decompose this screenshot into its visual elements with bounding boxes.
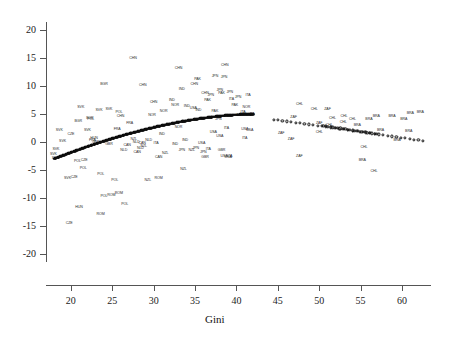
- data-point-label: CHL: [340, 121, 347, 125]
- data-point-label: FRA: [114, 128, 121, 132]
- x-axis-line: [46, 285, 431, 286]
- data-point-label: SVK: [56, 129, 63, 133]
- data-point-label: POL: [87, 118, 94, 122]
- data-point-label: NLD: [145, 139, 152, 143]
- data-point-label: CAN: [133, 151, 140, 155]
- data-point-label: NOR: [160, 111, 168, 115]
- data-point-label: CHL: [341, 116, 348, 120]
- data-point-label: SVK: [105, 108, 112, 112]
- data-point-label: CHL: [296, 103, 303, 107]
- data-point-label: SVK: [96, 109, 103, 113]
- data-point-label: SVK: [84, 130, 91, 134]
- data-point-label: BRA: [389, 116, 396, 120]
- fit-marker-right: [404, 137, 407, 140]
- data-point-label: NZL: [180, 168, 187, 172]
- fit-marker-right: [386, 134, 389, 137]
- data-point-label: BRA: [417, 111, 424, 115]
- data-point-label: IND: [169, 99, 175, 103]
- data-point-label: IND: [184, 105, 190, 109]
- fit-marker-right: [276, 119, 279, 122]
- y-tick-label: -10: [8, 192, 36, 203]
- data-point-label: PAK: [204, 99, 211, 103]
- data-point-label: PAK: [231, 104, 238, 108]
- data-point-label: SVK: [77, 106, 84, 110]
- data-point-label: IND: [182, 139, 188, 143]
- y-tick-mark: [40, 226, 46, 227]
- data-point-label: ITA: [206, 148, 211, 152]
- fit-marker-right: [312, 123, 315, 126]
- data-point-label: FRA: [126, 122, 133, 126]
- data-point-label: CHN: [190, 83, 198, 87]
- data-point-label: ITA: [224, 127, 229, 131]
- data-point-label: ITA: [154, 142, 159, 146]
- data-point-label: BRA: [405, 130, 412, 134]
- fit-marker-right: [316, 124, 319, 127]
- fit-marker-right: [412, 138, 415, 141]
- data-point-label: CZE: [81, 159, 88, 163]
- data-point-label: ITA: [246, 94, 251, 98]
- data-point-label: CHL: [370, 170, 377, 174]
- data-point-label: IND: [179, 88, 185, 92]
- x-tick-mark: [278, 285, 279, 291]
- x-tick-mark: [236, 285, 237, 291]
- data-point-label: CAN: [155, 156, 162, 160]
- data-point-label: NOR: [171, 104, 179, 108]
- data-point-label: ZAF: [324, 108, 331, 112]
- x-tick-label: 50: [305, 295, 333, 306]
- data-point-label: JPN: [179, 149, 186, 153]
- data-point-label: JPN: [227, 92, 234, 96]
- data-point-label: CHL: [349, 118, 356, 122]
- data-point-label: IND: [172, 143, 178, 147]
- data-point-label: ROM: [107, 194, 115, 198]
- x-tick-mark: [112, 285, 113, 291]
- data-point-label: NZL: [162, 152, 169, 156]
- data-point-label: NOR: [175, 126, 183, 130]
- fit-marker-left: [252, 113, 255, 116]
- data-point-label: NOR: [243, 106, 251, 110]
- data-point-label: GBR: [105, 144, 113, 148]
- scatter-plot-figure: 20151050-5-10-15-20 202530354045505560 C…: [0, 0, 451, 342]
- data-point-label: POL: [101, 195, 108, 199]
- x-tick-label: 55: [347, 295, 375, 306]
- y-tick-mark: [40, 170, 46, 171]
- fit-marker-right: [298, 122, 301, 125]
- data-point-label: USA: [198, 142, 205, 146]
- data-point-label: JPN: [217, 89, 224, 93]
- y-tick-label: -15: [8, 220, 36, 231]
- fit-marker-right: [307, 123, 310, 126]
- data-point-label: CHN: [221, 64, 229, 68]
- data-point-label: CZE: [66, 222, 73, 226]
- y-tick-mark: [40, 30, 46, 31]
- y-tick-label: 10: [8, 80, 36, 91]
- data-point-label: BGR: [75, 120, 83, 124]
- x-tick-label: 25: [98, 295, 126, 306]
- data-point-label: PAK: [194, 78, 201, 82]
- data-point-label: POL: [115, 111, 122, 115]
- x-tick-label: 40: [222, 295, 250, 306]
- data-point-label: ZAF: [290, 116, 297, 120]
- data-point-label: CHN: [139, 84, 147, 88]
- data-point-label: BRA: [365, 118, 372, 122]
- x-tick-mark: [402, 285, 403, 291]
- data-point-label: CHL: [360, 146, 367, 150]
- fit-marker-right: [382, 133, 385, 136]
- fit-marker-right: [281, 119, 284, 122]
- data-point-label: JPN: [208, 94, 215, 98]
- data-point-label: NLD: [120, 149, 127, 153]
- y-tick-mark: [40, 114, 46, 115]
- data-point-label: USA: [246, 130, 253, 134]
- data-point-label: CHL: [329, 117, 336, 121]
- data-point-label: NZL: [188, 149, 195, 153]
- fit-marker-right: [421, 139, 424, 142]
- data-point-label: BRA: [400, 118, 407, 122]
- y-tick-label: 15: [8, 52, 36, 63]
- data-point-label: ROM: [97, 213, 105, 217]
- data-point-label: USA: [216, 135, 223, 139]
- fit-marker-right: [285, 120, 288, 123]
- data-point-label: NZL: [145, 179, 152, 183]
- data-point-label: BRA: [354, 124, 361, 128]
- data-point-label: CAN: [123, 145, 130, 149]
- data-point-label: BRA: [373, 116, 380, 120]
- data-point-label: ZAF: [288, 139, 295, 143]
- y-tick-mark: [40, 58, 46, 59]
